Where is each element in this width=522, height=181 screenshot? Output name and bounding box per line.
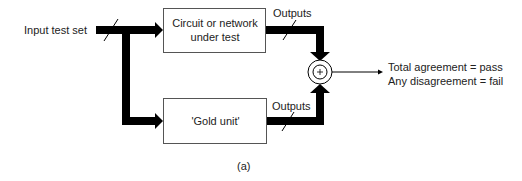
result-pass-label: Total agreement = pass (388, 61, 503, 74)
gold-unit-label: 'Gold unit' (164, 114, 267, 128)
circuit-under-test-line2: under test (164, 30, 266, 44)
top-output-bus (266, 20, 330, 61)
figure-caption: (a) (237, 160, 250, 173)
result-fail-label: Any disagreement = fail (388, 75, 503, 88)
bottom-outputs-label: Outputs (272, 100, 311, 113)
result-arrow (332, 70, 383, 75)
top-outputs-label: Outputs (273, 7, 312, 20)
circuit-under-test-label: Circuit or network under test (164, 16, 266, 44)
input-label: Input test set (24, 24, 87, 37)
input-bus (96, 19, 163, 129)
circuit-under-test-line1: Circuit or network (164, 16, 266, 30)
xor-comparator-icon (308, 60, 332, 84)
